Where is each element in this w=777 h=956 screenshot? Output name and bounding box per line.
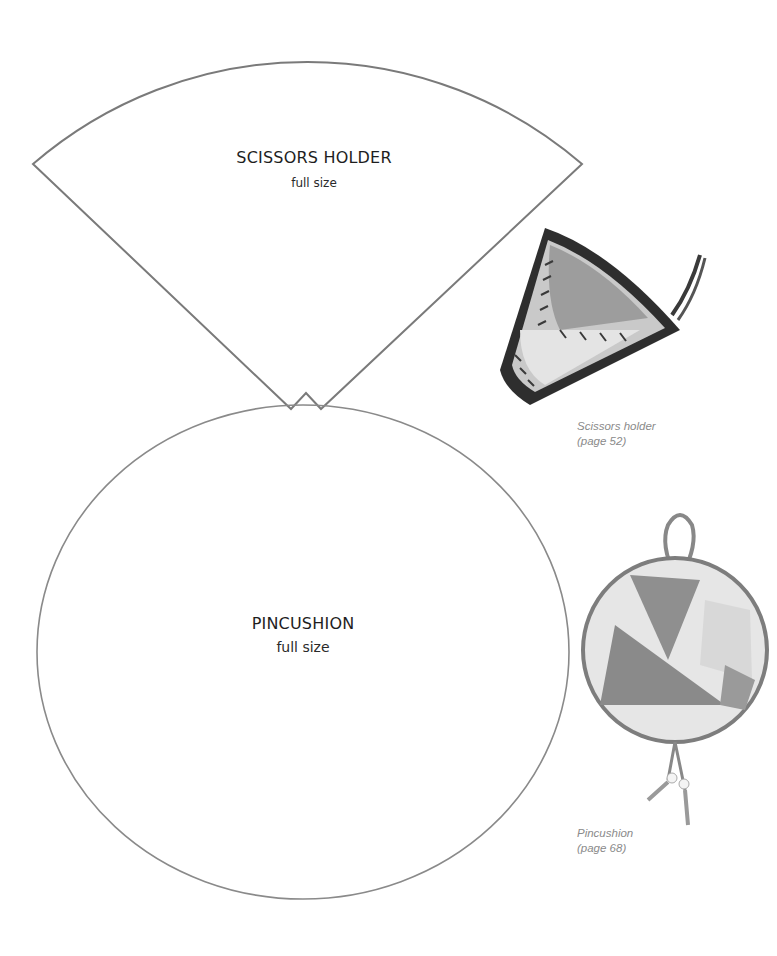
scissors-holder-title: SCISSORS HOLDER [214,148,414,167]
pattern-page: SCISSORS HOLDER full size PINCUSHION ful… [0,0,777,956]
pincushion-photo [583,515,767,825]
pincushion-title: PINCUSHION [203,614,403,633]
scissors-holder-photo [500,228,705,405]
scissors-holder-subtitle: full size [214,176,414,190]
pattern-outlines [0,0,777,956]
scissors-holder-caption-line1: Scissors holder [577,419,656,434]
pincushion-caption: Pincushion (page 68) [577,826,633,856]
pincushion-caption-line1: Pincushion [577,826,633,841]
scissors-holder-caption-line2: (page 52) [577,434,656,449]
pincushion-subtitle: full size [203,639,403,655]
scissors-holder-outline [33,62,582,409]
scissors-holder-caption: Scissors holder (page 52) [577,419,656,449]
pincushion-caption-line2: (page 68) [577,841,633,856]
